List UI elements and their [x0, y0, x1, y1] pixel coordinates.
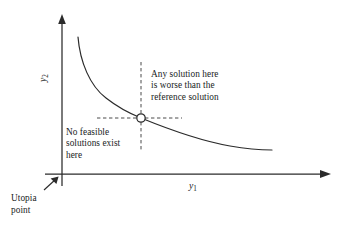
annotation-utopia-point: Utopia point [11, 192, 37, 216]
x-axis-label-subscript: 1 [193, 185, 197, 193]
annotation-worse-region: Any solution here is worse than the refe… [151, 69, 219, 103]
reference-solution-point [137, 114, 145, 122]
utopia-point-arrow [44, 177, 59, 190]
y-axis-label-base: y [37, 78, 48, 82]
pareto-front-figure [0, 0, 349, 230]
x-axis-arrow [45, 170, 331, 178]
annotation-infeasible-region: No feasible solutions exist here [66, 127, 120, 161]
y-axis-label: y2 [37, 74, 50, 82]
y-axis-label-subscript: 2 [42, 74, 50, 78]
y-axis-arrow [58, 14, 66, 186]
x-axis-label: y1 [189, 180, 197, 193]
